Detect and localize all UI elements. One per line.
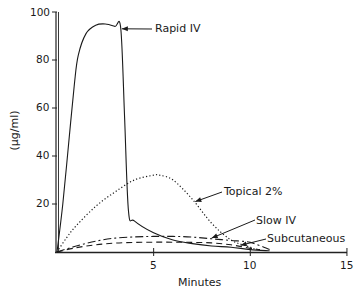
y-tick-100: 100: [30, 6, 50, 18]
label-topical: Topical 2%: [224, 186, 282, 198]
y-tick-20: 20: [36, 197, 49, 209]
concentration-chart: 100 80 60 40 20 5 10 15 Minutes (μg/ml) …: [0, 0, 358, 294]
arrowhead-icon: [122, 26, 128, 31]
y-tick-60: 60: [36, 101, 49, 113]
series-slow-iv: [57, 236, 270, 252]
x-tick-15: 15: [340, 259, 353, 271]
label-rapid-iv: Rapid IV: [155, 23, 200, 35]
label-slow-iv: Slow IV: [256, 215, 296, 227]
plot-area: [0, 0, 358, 294]
x-axis-label: Minutes: [178, 277, 221, 289]
x-tick-10: 10: [243, 259, 256, 271]
arrowhead-icon: [195, 197, 201, 202]
arrowhead-icon: [212, 233, 219, 238]
label-subcutaneous: Subcutaneous: [267, 233, 345, 245]
y-axis-label: (μg/ml): [8, 110, 21, 150]
series-rapid-iv: [57, 21, 270, 252]
x-tick-5: 5: [150, 259, 157, 271]
y-tick-80: 80: [36, 53, 49, 65]
y-tick-40: 40: [36, 149, 49, 161]
annotation-arrow-line: [212, 220, 255, 238]
